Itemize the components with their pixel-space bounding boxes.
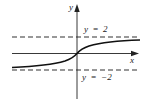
y-axis-arrow-icon — [74, 4, 79, 12]
y-axis-label: y — [69, 3, 73, 12]
x-axis-label: x — [130, 56, 134, 65]
upper-asymptote-label: y = 2 — [84, 25, 108, 34]
graph-plot — [0, 0, 146, 101]
lower-asymptote-label: y = −2 — [82, 73, 112, 82]
